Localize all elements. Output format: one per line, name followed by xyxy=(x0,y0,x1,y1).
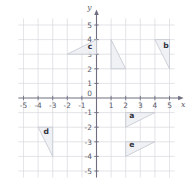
x-tick--4: -4 xyxy=(34,101,42,110)
y-tick-2: 2 xyxy=(87,65,92,74)
shape-label-a: a xyxy=(129,111,134,120)
x-tick-1: 1 xyxy=(109,101,114,110)
y-tick--4: -4 xyxy=(85,152,93,161)
y-axis-label: y xyxy=(86,3,92,12)
y-tick--3: -3 xyxy=(85,138,93,147)
y-tick-5: 5 xyxy=(87,21,92,30)
x-tick--2: -2 xyxy=(64,101,71,110)
coordinate-grid-svg: -5-4-3-2-1012345 54321-1-2-3-4-5 cbaed x… xyxy=(0,0,193,194)
shape-label-b: b xyxy=(163,41,169,50)
x-tick--5: -5 xyxy=(20,101,28,110)
shape-labels: cbaed xyxy=(43,41,169,149)
shape-label-c: c xyxy=(88,42,93,51)
x-tick-0: 0 xyxy=(87,89,92,98)
y-tick--1: -1 xyxy=(85,108,93,117)
axes xyxy=(18,9,183,177)
coordinate-plane-figure: -5-4-3-2-1012345 54321-1-2-3-4-5 cbaed x… xyxy=(0,0,193,194)
x-tick-5: 5 xyxy=(167,101,172,110)
x-tick-4: 4 xyxy=(153,101,158,110)
x-tick-3: 3 xyxy=(138,101,143,110)
shape-label-e: e xyxy=(129,140,134,149)
y-tick--2: -2 xyxy=(85,123,92,132)
y-tick--5: -5 xyxy=(85,167,93,176)
x-tick--3: -3 xyxy=(49,101,57,110)
x-axis-label: x xyxy=(181,100,186,109)
shape-label-d: d xyxy=(43,127,48,136)
x-tick-2: 2 xyxy=(123,101,128,110)
y-tick-1: 1 xyxy=(87,79,92,88)
